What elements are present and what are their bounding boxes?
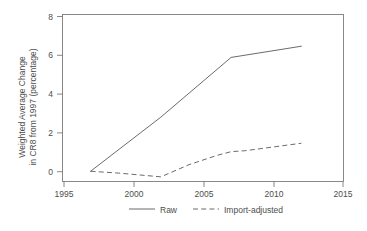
y-axis-title-line2: in CR8 from 1997 (percentage) xyxy=(28,48,38,165)
y-tick-label-8: 8 xyxy=(48,12,53,22)
y-axis: 8 6 4 2 0 xyxy=(48,12,62,177)
y-tick-label-4: 4 xyxy=(48,89,53,99)
chart-figure: Weighted Average Change in CR8 from 1997… xyxy=(0,0,367,231)
x-tick-label-2010: 2010 xyxy=(265,189,284,199)
y-tick-label-0: 0 xyxy=(48,167,53,177)
legend-label-import-adjusted: Import-adjusted xyxy=(224,205,283,215)
y-axis-title-line1: Weighted Average Change xyxy=(17,56,27,158)
plot-frame xyxy=(63,15,344,182)
x-tick-label-2005: 2005 xyxy=(195,189,214,199)
legend-label-raw: Raw xyxy=(160,205,178,215)
x-axis: 1995 2000 2005 2010 2015 xyxy=(55,182,353,200)
y-tick-label-6: 6 xyxy=(48,50,53,60)
line-chart: Weighted Average Change in CR8 from 1997… xyxy=(0,0,367,231)
x-tick-label-2000: 2000 xyxy=(125,189,144,199)
y-tick-label-2: 2 xyxy=(48,128,53,138)
series-line-import-adjusted xyxy=(91,143,302,177)
chart-legend: Raw Import-adjusted xyxy=(129,205,283,215)
y-axis-title: Weighted Average Change in CR8 from 1997… xyxy=(17,48,38,165)
x-tick-label-2015: 2015 xyxy=(334,189,353,199)
series-line-raw xyxy=(91,46,302,171)
x-tick-label-1995: 1995 xyxy=(55,189,74,199)
